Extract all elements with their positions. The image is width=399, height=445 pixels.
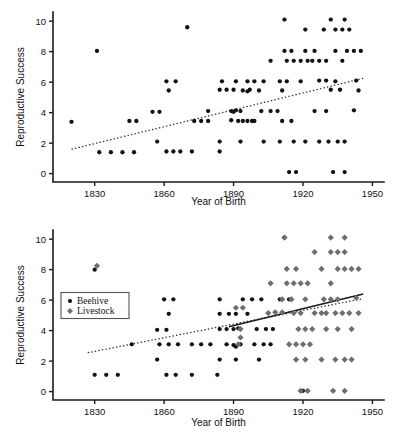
data-point-beehive [343, 139, 347, 143]
data-point-beehive [238, 109, 242, 113]
data-point-livestock [318, 266, 324, 272]
data-point-beehive [324, 78, 328, 82]
legend-label-beehive: Beehive [77, 296, 108, 306]
x-tick-label: 1830 [84, 188, 105, 199]
data-point-beehive [257, 357, 261, 361]
data-point-beehive [287, 170, 291, 174]
data-point-livestock [307, 341, 313, 347]
data-point-beehive [245, 312, 249, 316]
data-point-beehive [259, 297, 263, 301]
data-point-livestock [342, 356, 348, 362]
y-tick-label: 2 [41, 356, 46, 367]
data-point-beehive [252, 342, 256, 346]
data-point-beehive [218, 149, 222, 153]
data-point-livestock [342, 266, 348, 272]
axes [53, 12, 384, 182]
data-point-beehive [215, 373, 219, 377]
data-point-beehive [164, 373, 168, 377]
data-point-beehive [303, 139, 307, 143]
data-point-beehive [95, 49, 99, 53]
data-point-beehive [236, 119, 240, 123]
data-point-beehive [127, 119, 131, 123]
data-point-livestock [286, 341, 292, 347]
data-point-beehive [167, 312, 171, 316]
data-point-livestock [298, 280, 304, 286]
data-point-beehive [157, 110, 161, 114]
data-point-beehive [164, 328, 168, 332]
data-point-beehive [234, 108, 238, 112]
data-point-livestock [237, 334, 243, 340]
data-point-livestock [335, 249, 341, 255]
data-point-beehive [280, 119, 284, 123]
data-point-beehive [164, 149, 168, 153]
data-point-beehive [199, 342, 203, 346]
data-point-beehive [218, 88, 222, 92]
data-point-beehive [271, 327, 275, 331]
data-point-beehive [97, 150, 101, 154]
x-tick-label: 1860 [154, 188, 175, 199]
data-point-livestock [305, 388, 311, 394]
data-point-beehive [333, 27, 337, 31]
data-point-beehive [261, 139, 265, 143]
data-point-livestock [284, 280, 290, 286]
data-point-beehive [132, 150, 136, 154]
x-tick-label: 1890 [223, 406, 244, 417]
legend-marker-beehive [68, 299, 72, 303]
y-tick-label: 4 [41, 325, 46, 336]
data-point-beehive [303, 49, 307, 53]
data-point-livestock [240, 305, 246, 311]
data-point-beehive [275, 109, 279, 113]
data-point-beehive [268, 59, 272, 63]
data-point-beehive [155, 357, 159, 361]
data-point-beehive [343, 17, 347, 21]
data-point-livestock [302, 296, 308, 302]
x-axis-title: Year of Birth [191, 196, 246, 207]
data-point-beehive [120, 150, 124, 154]
data-point-beehive [336, 139, 340, 143]
x-axis-title: Year of Birth [191, 417, 246, 428]
data-point-beehive [69, 120, 73, 124]
data-point-beehive [326, 139, 330, 143]
data-point-beehive [234, 357, 238, 361]
y-tick-label: 0 [41, 168, 46, 179]
data-point-livestock [346, 310, 352, 316]
data-point-beehive [280, 88, 284, 92]
data-point-livestock [233, 305, 239, 311]
data-point-beehive [229, 118, 233, 122]
chart-canvas: 024681018301860189019201950Year of Birth… [0, 215, 399, 445]
data-point-beehive [340, 27, 344, 31]
data-point-beehive [190, 373, 194, 377]
data-point-livestock [318, 356, 324, 362]
data-point-livestock [302, 326, 308, 332]
data-point-beehive [206, 119, 210, 123]
data-point-beehive [241, 297, 245, 301]
y-tick-label: 2 [41, 138, 46, 149]
data-point-beehive [220, 79, 224, 83]
data-point-livestock [305, 280, 311, 286]
data-point-beehive [93, 267, 97, 271]
data-point-beehive [227, 312, 231, 316]
trend-line-livestock-trend [229, 294, 363, 327]
data-point-beehive [134, 119, 138, 123]
figure-root: 024681018301860189019201950Year of Birth… [0, 0, 399, 445]
data-point-beehive [352, 49, 356, 53]
x-tick-label: 1950 [362, 406, 383, 417]
data-point-beehive [324, 59, 328, 63]
data-point-livestock [281, 235, 287, 241]
x-axis-ticks: 18301860189019201950 [84, 400, 383, 417]
series-beehive [69, 17, 363, 174]
data-point-beehive [93, 373, 97, 377]
data-point-beehive [157, 342, 161, 346]
y-tick-label: 8 [41, 264, 46, 275]
data-point-beehive [278, 79, 282, 83]
data-point-beehive [340, 59, 344, 63]
data-point-beehive [268, 342, 272, 346]
data-point-beehive [116, 373, 120, 377]
data-point-beehive [338, 88, 342, 92]
data-point-beehive [347, 27, 351, 31]
data-point-beehive [234, 79, 238, 83]
data-point-beehive [162, 297, 166, 301]
data-point-beehive [208, 342, 212, 346]
data-point-beehive [167, 342, 171, 346]
data-point-livestock [302, 356, 308, 362]
